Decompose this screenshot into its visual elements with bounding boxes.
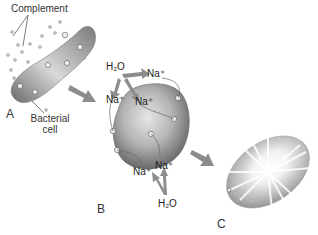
sodium-ion-label-top-right: Na⁺ [147,69,165,79]
panel-a-label: A [6,108,14,120]
water-label-bottom: H₂O [158,199,177,209]
water-label-top: H₂O [106,62,125,72]
arrow-a-to-b [68,85,96,102]
sodium-ion-label-top-left: Na⁺ [106,95,124,105]
bacterial-cell-label: Bacterial cell [30,114,70,135]
sodium-ion-label-bottom-right: Na⁺ [155,161,173,171]
bacterial-cell-label-line2: cell [30,125,70,135]
complement-label: Complement [11,4,68,14]
complement-pointer-lines [13,15,28,46]
arrow-b-to-c [190,150,214,166]
sodium-ion-label-center: Na⁺ [135,97,153,107]
bacterial-cell-label-line1: Bacterial [30,114,70,124]
bacterial-cell-a [11,26,95,102]
panel-c-label: C [217,218,226,230]
water-arrows-bottom [152,167,168,195]
sodium-ion-label-bottom-left: Na⁺ [133,167,151,177]
bacterial-cell-pointer [32,101,44,113]
panel-b-label: B [97,203,105,215]
lysed-cell-c [213,121,318,223]
